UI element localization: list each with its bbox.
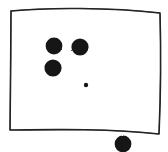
dot-tiny-center — [84, 83, 88, 87]
frame-group — [10, 8, 161, 134]
dot-middle-left — [44, 59, 61, 76]
rectangle-outline-overlay — [10, 8, 161, 134]
dots-group — [44, 38, 131, 152]
rectangle-outline — [10, 8, 161, 134]
sketch-canvas — [0, 0, 168, 152]
dot-outside-bottom-right — [115, 136, 132, 152]
sketch-drawing — [0, 0, 168, 152]
dot-upper-right — [71, 38, 88, 55]
dot-upper-left — [46, 38, 63, 55]
